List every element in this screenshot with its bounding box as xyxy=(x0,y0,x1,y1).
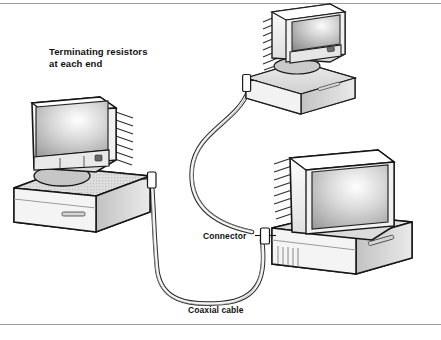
power-button xyxy=(327,46,335,52)
monitor-screen xyxy=(36,101,108,157)
crt-monitor xyxy=(32,97,116,172)
label-terminating-resistors-line2: at each end xyxy=(49,58,102,69)
cable-segment-top xyxy=(192,92,252,232)
drive-slot xyxy=(62,212,85,216)
network-topology-figure: Terminating resistors at each end Connec… xyxy=(0,0,441,340)
computer-left xyxy=(14,97,156,232)
power-button xyxy=(95,155,102,161)
crt-monitor xyxy=(290,150,394,240)
monitor-screen xyxy=(312,165,388,229)
computer-right xyxy=(255,150,412,274)
label-coaxial-cable: Coaxial cable xyxy=(188,305,244,315)
cable-segment-bottom xyxy=(151,186,264,305)
crt-monitor xyxy=(272,4,345,63)
computer-top-right xyxy=(243,4,355,114)
label-connector: Connector xyxy=(203,231,246,241)
label-terminating-resistors: Terminating resistors at each end xyxy=(49,46,189,69)
label-terminating-resistors-line1: Terminating resistors xyxy=(49,46,148,57)
